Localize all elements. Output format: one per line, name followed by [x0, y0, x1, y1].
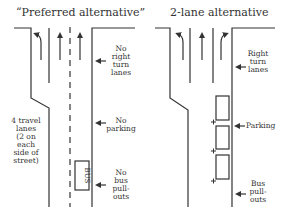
right-lane-arrows	[178, 34, 226, 60]
bus-box-text: BUS	[83, 168, 91, 184]
parking-label: Parking	[246, 122, 275, 130]
parking-spaces	[216, 96, 229, 179]
parking-plus-marks	[211, 120, 216, 184]
no-right-turn-label: No right turn lanes	[108, 45, 134, 77]
right-pointer-arrows	[237, 67, 246, 194]
parking-space	[216, 155, 229, 179]
bus-pullouts-label: Bus pull- outs	[246, 180, 270, 204]
left-lane-arrows	[36, 34, 80, 60]
no-parking-label: No parking	[104, 117, 138, 133]
parking-space	[216, 96, 229, 120]
travel-lanes-label: 4 travel lanes (2 on each side of street…	[8, 117, 44, 165]
right-turn-arrow-icon	[221, 34, 226, 60]
right-turn-lanes-label: Right turn lanes	[244, 50, 272, 74]
left-turn-arrow-icon	[36, 34, 41, 60]
left-turn-arrow-icon	[178, 34, 183, 60]
parking-space	[216, 126, 229, 149]
road-diagrams: BUS	[0, 0, 285, 215]
no-bus-pullouts-label: No bus pull- outs	[108, 169, 134, 201]
